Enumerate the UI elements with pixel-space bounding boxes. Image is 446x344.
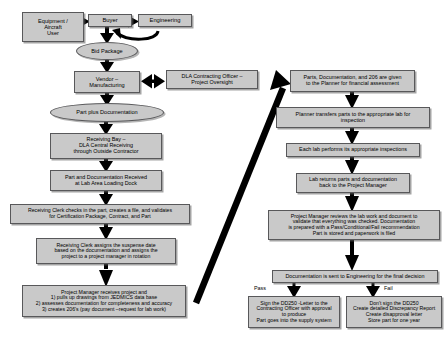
node-each_lab: Each lab performs its appropriate inspec… (286, 143, 420, 157)
arrow-engineering-back-to-buyer (112, 28, 158, 39)
node-bid_package: Bid Package (76, 42, 138, 60)
node-pm_receives: Project Manager receives project and 1) … (22, 285, 186, 317)
node-planner_transfers: Planner transfers parts to the appropria… (276, 107, 430, 128)
node-buyer: Buyer (88, 14, 132, 27)
arrow-pm-reviews-to-doc-engineering (345, 240, 359, 271)
node-part_received: Part and Documentation Received at Lab A… (50, 170, 162, 191)
node-equipment_user: Equipment / Aircraft User (22, 12, 84, 42)
node-engineering: Engineering (138, 14, 192, 27)
process-flowchart: Equipment / Aircraft UserBuyerEngineerin… (0, 0, 446, 344)
arrow-vendor-dla-bidirectional (141, 74, 165, 88)
node-fail_action: Don't sign the DD250 Create detailed Dis… (346, 296, 442, 328)
node-receiving_bay: Receiving Bay – DLA Central Receiving th… (50, 133, 162, 159)
node-clerk_checks: Receiving Clerk checks in the part, crea… (10, 204, 190, 224)
node-pass_action: Sign the DD250 -Letter to the Contractin… (248, 296, 340, 328)
node-clerk_assigns: Receiving Clerk assigns the suspense dat… (36, 238, 176, 264)
edge-label-pass_label: Pass (254, 286, 266, 291)
node-doc_engineering: Documentation is sent to Engineering for… (272, 270, 438, 283)
node-part_plus_doc: Part plus Documentation (50, 103, 164, 122)
node-pm_reviews: Project Manager reviews the lab work and… (268, 210, 440, 240)
arrow-pm-receives-to-parts-planner (196, 70, 291, 303)
arrow-clerk-assigns-to-pm-receives (99, 264, 113, 287)
node-parts_planner: Parts, Documentation, and 206 are given … (290, 70, 415, 92)
node-dla_contracting: DLA Contracting Officer – Project Oversi… (166, 70, 258, 89)
edge-label-fail_label: Fail (384, 286, 393, 291)
node-vendor: Vendor – Manufacturing (74, 71, 140, 93)
node-lab_returns: Lab returns parts and documentation back… (296, 173, 410, 193)
